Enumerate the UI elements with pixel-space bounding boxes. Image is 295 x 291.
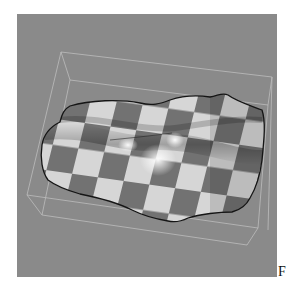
figure-panel: F	[0, 0, 295, 291]
checkerboard-surface	[30, 85, 275, 230]
panel-label: F	[278, 265, 286, 279]
deformed-surface-render	[0, 0, 295, 291]
